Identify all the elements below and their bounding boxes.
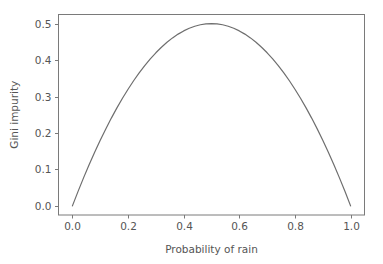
y-tick-label: 0.3: [35, 91, 52, 103]
y-tick-label: 0.5: [35, 18, 52, 30]
x-tick-label: 0.6: [231, 220, 248, 232]
y-axis-title: Gini impurity: [8, 81, 20, 149]
y-tick-label: 0.0: [35, 200, 52, 212]
x-axis-title: Probability of rain: [165, 243, 258, 255]
x-tick-label: 0.8: [287, 220, 304, 232]
x-tick-label: 0.0: [64, 220, 81, 232]
y-tick-label: 0.4: [35, 54, 52, 66]
gini-impurity-chart: 0.00.20.40.60.81.0 0.00.10.20.30.40.5 Pr…: [0, 0, 383, 264]
x-tick-label: 0.2: [120, 220, 137, 232]
y-tick-label: 0.2: [35, 127, 52, 139]
axes-frame: [59, 15, 365, 216]
chart-figure: 0.00.20.40.60.81.0 0.00.10.20.30.40.5 Pr…: [0, 0, 383, 264]
y-tick-label: 0.1: [35, 163, 52, 175]
x-tick-label: 0.4: [176, 220, 193, 232]
x-tick-label: 1.0: [343, 220, 360, 232]
